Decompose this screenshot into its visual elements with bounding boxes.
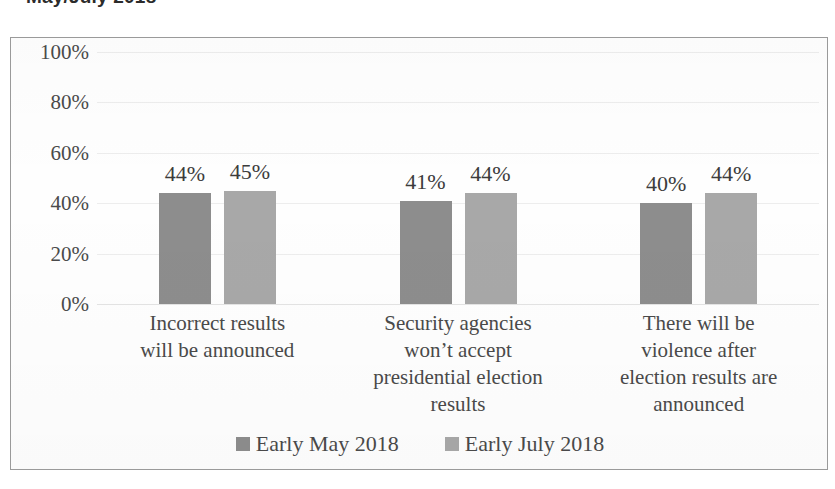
category-label: Security agencieswon’t acceptpresidentia… [330, 310, 587, 418]
bar-group: 44%45% [159, 52, 276, 304]
chart-legend: Early May 2018Early July 2018 [11, 431, 829, 457]
bar-group: 40%44% [640, 52, 757, 304]
category-label-line: will be announced [89, 337, 346, 364]
y-axis-tick-label: 20% [51, 241, 90, 266]
bar[interactable] [400, 201, 452, 304]
category-label-line: presidential election [330, 364, 587, 391]
gridline [97, 304, 819, 305]
y-axis-tick-label: 0% [61, 292, 89, 317]
bar-value-label: 44% [461, 161, 521, 187]
legend-label: Early May 2018 [256, 431, 399, 457]
chart-frame: 100%80%60%40%20%0% 44%45%41%44%40%44% In… [10, 37, 828, 470]
legend-swatch-icon [445, 437, 459, 451]
category-label-line: won’t accept [330, 337, 587, 364]
bar-value-label: 45% [220, 159, 280, 185]
bar-value-label: 40% [636, 171, 696, 197]
category-label-line: election results are [570, 364, 827, 391]
category-label-line: Incorrect results [89, 310, 346, 337]
bar[interactable] [640, 203, 692, 304]
y-axis-tick-label: 60% [51, 140, 90, 165]
plot-area: 44%45%41%44%40%44% [97, 52, 819, 304]
bar-group: 41%44% [400, 52, 517, 304]
bar[interactable] [159, 193, 211, 304]
category-label: Incorrect resultswill be announced [89, 310, 346, 364]
legend-item[interactable]: Early May 2018 [236, 431, 399, 457]
chart-title: May/July 2018 [26, 0, 156, 8]
bar-value-label: 44% [701, 161, 761, 187]
category-axis: Incorrect resultswill be announcedSecuri… [97, 310, 819, 428]
bar[interactable] [465, 193, 517, 304]
category-label-line: violence after [570, 337, 827, 364]
y-axis-tick-label: 40% [51, 191, 90, 216]
category-label: There will beviolence afterelection resu… [570, 310, 827, 418]
category-label-line: Security agencies [330, 310, 587, 337]
legend-swatch-icon [236, 437, 250, 451]
y-axis-tick-label: 100% [40, 40, 89, 65]
category-label-line: announced [570, 391, 827, 418]
bar-value-label: 41% [396, 169, 456, 195]
bar[interactable] [705, 193, 757, 304]
legend-item[interactable]: Early July 2018 [445, 431, 604, 457]
bar-value-label: 44% [155, 161, 215, 187]
legend-label: Early July 2018 [465, 431, 604, 457]
y-axis-tick-label: 80% [51, 90, 90, 115]
category-label-line: There will be [570, 310, 827, 337]
bar[interactable] [224, 191, 276, 304]
category-label-line: results [330, 391, 587, 418]
y-axis: 100%80%60%40%20%0% [17, 52, 93, 304]
